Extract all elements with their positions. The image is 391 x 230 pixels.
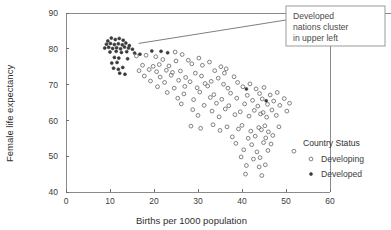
data-point-developing — [272, 99, 276, 103]
data-point-developing — [245, 93, 249, 97]
data-point-developed — [111, 47, 114, 50]
data-point-developing — [249, 129, 253, 133]
legend: Country StatusDevelopingDeveloped — [303, 138, 364, 179]
data-point-developing — [209, 79, 213, 83]
data-point-developing — [255, 150, 259, 154]
data-point-developing — [195, 86, 199, 90]
data-point-developing — [163, 81, 167, 85]
data-point-developing — [176, 96, 180, 100]
data-point-developing — [183, 84, 187, 88]
data-point-developed — [126, 57, 129, 60]
data-point-developing — [239, 155, 243, 159]
data-point-developed — [116, 61, 119, 64]
y-tick-label: 40 — [49, 187, 59, 197]
data-point-developing — [241, 85, 245, 89]
data-point-developing — [263, 124, 267, 128]
data-point-developing — [193, 71, 197, 75]
data-point-developed — [123, 73, 126, 76]
data-point-developing — [220, 97, 224, 101]
data-point-developed — [115, 46, 118, 49]
data-point-developing — [292, 149, 296, 153]
data-point-developed — [109, 51, 112, 54]
data-point-developing — [246, 136, 250, 140]
y-tick-label: 70 — [49, 80, 59, 90]
axis-titles: Births per 1000 populationFemale life ex… — [4, 65, 247, 226]
data-point-developed — [112, 67, 115, 70]
data-point-developing — [186, 58, 190, 62]
data-point-developing — [218, 129, 222, 133]
data-point-developing — [197, 56, 201, 60]
data-point-developing — [234, 141, 238, 145]
data-point-developing — [258, 92, 262, 96]
data-point-developed — [103, 47, 106, 50]
data-point-developing — [196, 113, 200, 117]
data-point-developing — [244, 172, 248, 176]
data-point-developing — [222, 82, 226, 86]
data-point-developing — [161, 58, 165, 62]
data-point-developing — [225, 125, 229, 129]
data-point-developing — [211, 123, 215, 127]
x-tick-label: 30 — [193, 196, 203, 206]
data-point-developing — [137, 69, 141, 73]
data-point-developing — [216, 76, 220, 80]
data-point-developed — [160, 50, 163, 53]
legend-title: Country Status — [303, 138, 360, 148]
data-point-developed — [117, 42, 120, 45]
data-point-developed — [122, 39, 125, 42]
data-point-developed — [131, 48, 134, 51]
data-point-developing — [224, 67, 228, 71]
x-tick-label: 50 — [281, 196, 291, 206]
legend-label: Developed — [321, 169, 362, 179]
data-point-developing — [149, 79, 153, 83]
data-point-developing — [200, 74, 204, 78]
x-tick-label: 10 — [105, 196, 115, 206]
data-point-developed — [114, 38, 117, 41]
data-point-developing — [135, 54, 139, 58]
data-point-developing — [192, 98, 196, 102]
data-point-developing — [206, 84, 210, 88]
data-point-developing — [277, 125, 281, 129]
data-point-developing — [201, 63, 205, 67]
data-point-developing — [252, 157, 256, 161]
data-point-developing — [245, 164, 249, 168]
data-point-developing — [256, 104, 260, 108]
data-point-developed — [107, 46, 110, 49]
data-point-developing — [251, 98, 255, 102]
x-tick-label: 0 — [64, 196, 69, 206]
y-tick-label: 60 — [49, 116, 59, 126]
data-point-developed — [125, 50, 128, 53]
data-point-developed — [117, 68, 120, 71]
data-point-developing — [198, 90, 202, 94]
data-point-developing — [263, 163, 267, 167]
data-point-developing — [151, 64, 155, 68]
data-point-developing — [165, 91, 169, 95]
data-point-developed — [118, 72, 121, 75]
scatter-chart: 0102030405060405060708090 Developednatio… — [0, 0, 391, 230]
data-point-developing — [226, 86, 230, 90]
data-point-developing — [219, 65, 223, 69]
data-point-developing — [147, 68, 151, 72]
data-point-developed — [265, 99, 268, 102]
data-point-developing — [177, 78, 181, 82]
data-point-developing — [189, 124, 193, 128]
data-point-developing — [285, 109, 289, 113]
data-point-developing — [275, 91, 279, 95]
data-point-developing — [167, 64, 171, 68]
annotation-callout: Developednations clusterin upper left — [139, 6, 385, 46]
data-point-developing — [180, 53, 184, 57]
data-point-developing — [270, 108, 274, 112]
legend-label: Developing — [321, 154, 364, 164]
data-point-developed — [121, 66, 124, 69]
data-point-developing — [271, 134, 275, 138]
data-point-developed — [113, 43, 116, 46]
data-point-developing — [250, 143, 254, 147]
data-point-developing — [240, 124, 244, 128]
legend-marker-developed — [310, 173, 313, 176]
data-point-developing — [237, 127, 241, 131]
data-point-developing — [182, 92, 186, 96]
data-point-developing — [268, 93, 272, 97]
data-point-developed — [166, 51, 169, 54]
data-point-developing — [208, 96, 212, 100]
data-point-developing — [155, 70, 159, 74]
data-point-developing — [269, 142, 273, 146]
